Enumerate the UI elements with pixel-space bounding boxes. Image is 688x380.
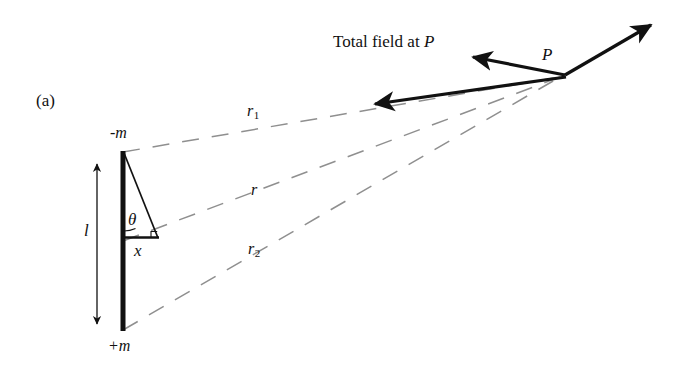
negative-pole-label: -m	[110, 125, 127, 141]
point-p-label: P	[542, 46, 552, 63]
r1-label: r1	[247, 103, 259, 121]
r1-subscript: 1	[254, 109, 260, 121]
r1-base: r	[247, 102, 253, 119]
r-dashed-line	[123, 77, 560, 241]
length-label: l	[84, 222, 89, 239]
figure-canvas	[0, 0, 688, 380]
offset-label: x	[134, 242, 142, 259]
field-arrow-up-right	[565, 25, 651, 75]
total-field-caption: Total field at P	[333, 33, 434, 50]
figure-dipole-field: (a) -m +m l θ x r1 r r2 Total field at P…	[0, 0, 688, 380]
theta-label: θ	[128, 211, 136, 228]
r2-label: r2	[248, 241, 260, 259]
r2-base: r	[248, 240, 254, 257]
total-field-caption-text: Total field at	[333, 32, 424, 51]
total-field-caption-point: P	[424, 32, 434, 51]
r-label: r	[251, 182, 257, 198]
r2-subscript: 2	[255, 247, 261, 259]
panel-label: (a)	[36, 92, 55, 109]
field-arrow-long-left	[375, 77, 566, 104]
positive-pole-label: +m	[108, 338, 130, 354]
